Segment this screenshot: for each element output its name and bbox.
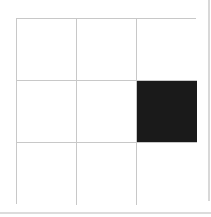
grid-cell-r1c3[interactable] [137,19,197,81]
panel-divider-vertical [208,0,210,201]
grid-cell-r3c1[interactable] [17,143,77,205]
caption-text [50,0,160,6]
grid-cell-r3c3[interactable] [137,143,197,205]
grid-cell-r1c2[interactable] [77,19,137,81]
panel-divider-horizontal [0,212,211,214]
tile-grid [16,18,196,204]
grid-cell-r3c2[interactable] [77,143,137,205]
grid-cell-r2c2[interactable] [77,81,137,143]
grid-cell-r2c1[interactable] [17,81,77,143]
grid-cell-r2c3-filled[interactable] [137,81,197,143]
grid-cell-r1c1[interactable] [17,19,77,81]
